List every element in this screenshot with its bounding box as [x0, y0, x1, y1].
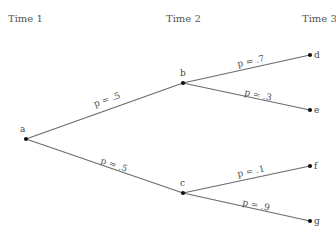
time-2-label: Time 2 [166, 13, 201, 24]
node-g-label: g [314, 216, 320, 226]
node-f [308, 164, 312, 168]
time-1-label: Time 1 [8, 13, 43, 24]
node-a-label: a [20, 124, 26, 134]
probability-tree-diagram: Time 1 Time 2 Time 3 p = .5 p = .5 p = .… [0, 0, 336, 239]
edge-c-g-label: p = .9 [242, 197, 271, 213]
node-e-label: e [314, 105, 319, 115]
edge-b-e-label: p = .3 [244, 87, 273, 103]
node-c [181, 191, 185, 195]
node-b [181, 81, 185, 85]
node-b-label: b [180, 68, 186, 78]
node-e [308, 108, 312, 112]
node-f-label: f [314, 161, 318, 171]
edge-b-d-label: p = .7 [236, 53, 265, 69]
time-3-label: Time 3 [302, 13, 336, 24]
edge-a-b [26, 83, 183, 139]
node-c-label: c [180, 178, 185, 188]
node-g [308, 219, 312, 223]
edge-a-c-label: p = .5 [99, 155, 129, 174]
node-a [24, 137, 28, 141]
node-d-label: d [314, 50, 320, 60]
node-d [308, 53, 312, 57]
